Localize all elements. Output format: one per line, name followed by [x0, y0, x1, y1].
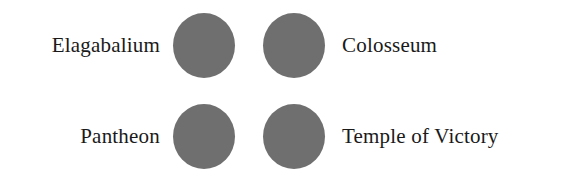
label-pantheon: Pantheon — [0, 125, 160, 148]
diagram-row-top: Elagabalium Colosseum — [0, 0, 580, 91]
filled-circle-icon — [173, 13, 235, 78]
figure-diagram: Elagabalium Colosseum Pantheon Temple of… — [0, 0, 580, 182]
label-elagabalium: Elagabalium — [0, 34, 160, 57]
label-colosseum: Colosseum — [342, 34, 580, 57]
filled-circle-icon — [173, 104, 235, 169]
filled-circle-icon — [263, 13, 325, 78]
label-temple-of-victory: Temple of Victory — [342, 125, 580, 148]
diagram-row-bottom: Pantheon Temple of Victory — [0, 91, 580, 182]
filled-circle-icon — [263, 104, 325, 169]
